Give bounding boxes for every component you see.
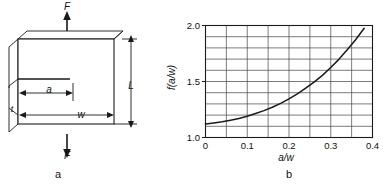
x-tick-label: 0.4 [359,140,384,151]
y-axis-title: f(a/w) [166,50,177,106]
panel-caption-a: a [46,168,70,180]
force-label-top: F [60,1,74,12]
specimen-diagram [9,11,137,158]
chart-panel [202,26,373,138]
y-tick-label: 1.0 [178,132,200,143]
width-label: w [74,109,88,120]
length-label: L [125,80,137,91]
y-tick-label: 1.5 [178,76,200,87]
x-tick-label: 0.1 [233,140,261,151]
panel-caption-b: b [277,168,301,180]
y-tick-label: 2.0 [178,20,200,31]
x-axis-title: a/w [266,152,306,163]
crack-length-label: a [43,84,55,95]
x-tick-label: 0.3 [317,140,345,151]
thickness-label: t [7,104,17,114]
force-label-bottom: F [60,150,74,161]
x-tick-label: 0.2 [275,140,303,151]
specimen-block [9,31,123,132]
